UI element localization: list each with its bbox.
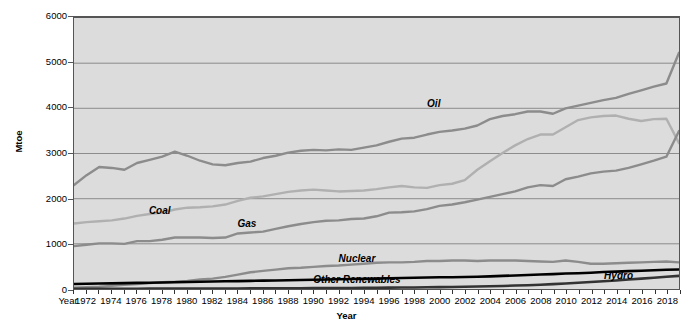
x-tick-label: 1988 [277,296,298,306]
x-tick-mark [377,290,378,294]
x-tick-label: 1982 [202,296,223,306]
x-tick-mark [200,290,201,294]
y-tick-mark [68,107,73,108]
x-tick-mark [250,290,251,294]
x-tick-mark [402,290,403,294]
x-tick-label: 2010 [556,296,577,306]
x-tick-mark [149,290,150,294]
x-tick-mark [629,290,630,294]
x-tick-mark [86,290,87,294]
series-label-nuclear: Nuclear [339,254,376,264]
x-tick-label: 1984 [227,296,248,306]
x-axis-tick-labels: Year197219741976197819801982198419861988… [0,296,693,310]
x-tick-mark [528,290,529,294]
x-tick-label: 2004 [480,296,501,306]
x-tick-mark [275,290,276,294]
x-tick-mark [655,290,656,294]
x-tick-label: 2016 [632,296,653,306]
x-tick-mark [225,290,226,294]
x-tick-mark [313,290,314,294]
x-tick-label: 2012 [581,296,602,306]
x-tick-mark [604,290,605,294]
y-tick-label: 0 [5,285,67,295]
y-axis: 0100020003000400050006000 [0,0,67,324]
series-lines [74,18,679,289]
x-tick-mark [440,290,441,294]
x-tick-mark [326,290,327,294]
x-tick-mark [642,290,643,294]
x-tick-label: 2006 [505,296,526,306]
x-tick-mark [364,290,365,294]
x-tick-mark [503,290,504,294]
x-tick-label: 1998 [404,296,425,306]
x-tick-label: 2000 [429,296,450,306]
x-tick-mark [414,290,415,294]
x-tick-mark [427,290,428,294]
y-axis-title: Mtoe [13,112,24,172]
x-tick-label: 2014 [606,296,627,306]
x-tick-label: 2018 [657,296,678,306]
x-tick-mark [98,290,99,294]
y-tick-label: 6000 [5,11,67,21]
x-tick-mark [301,290,302,294]
x-tick-mark [490,290,491,294]
x-tick-label: 2002 [454,296,475,306]
x-tick-label: 1978 [151,296,172,306]
x-tick-mark [541,290,542,294]
x-tick-label: 1992 [328,296,349,306]
x-tick-mark [617,290,618,294]
x-tick-label: 1980 [176,296,197,306]
series-label-coal: Coal [149,206,171,216]
x-tick-mark [124,290,125,294]
x-tick-mark [592,290,593,294]
y-tick-mark [68,62,73,63]
x-tick-mark [162,290,163,294]
y-tick-label: 2000 [5,194,67,204]
x-tick-mark [111,290,112,294]
x-tick-mark [339,290,340,294]
plot-area [73,16,680,290]
series-label-other-renewables: Other Renewables [313,275,400,285]
x-axis-title: Year [0,310,693,321]
x-tick-mark [136,290,137,294]
series-label-oil: Oil [427,99,440,109]
x-tick-label: 1986 [252,296,273,306]
x-tick-mark [667,290,668,294]
x-tick-mark [478,290,479,294]
x-tick-mark [452,290,453,294]
x-tick-mark [465,290,466,294]
x-tick-label: 1974 [100,296,121,306]
x-tick-mark [237,290,238,294]
x-tick-mark [579,290,580,294]
x-tick-mark [263,290,264,294]
x-tick-mark [73,290,74,294]
energy-consumption-chart: 0100020003000400050006000 Mtoe OilCoalGa… [0,0,693,324]
x-tick-label: 2008 [530,296,551,306]
x-tick-mark [680,290,681,294]
x-tick-mark [516,290,517,294]
x-tick-mark [174,290,175,294]
x-tick-mark [566,290,567,294]
y-tick-label: 5000 [5,57,67,67]
y-tick-mark [68,244,73,245]
x-tick-label: 1972 [75,296,96,306]
y-tick-label: 1000 [5,240,67,250]
y-tick-mark [68,16,73,17]
series-label-gas: Gas [237,219,256,229]
x-tick-mark [351,290,352,294]
x-tick-label: 1994 [353,296,374,306]
x-tick-mark [554,290,555,294]
y-tick-mark [68,199,73,200]
x-tick-mark [288,290,289,294]
y-tick-mark [68,290,73,291]
x-tick-mark [187,290,188,294]
x-tick-label: 1990 [303,296,324,306]
y-tick-mark [68,153,73,154]
x-tick-label: 1976 [126,296,147,306]
series-label-hydro: Hydro [604,271,633,281]
x-tick-mark [212,290,213,294]
x-tick-mark [389,290,390,294]
x-tick-label: 1996 [379,296,400,306]
